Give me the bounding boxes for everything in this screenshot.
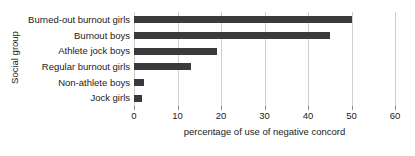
x-axis-tick-label: 30 bbox=[259, 110, 270, 121]
bar-row bbox=[134, 43, 395, 59]
bar-chart: Social group Burned-out burnout girls Bu… bbox=[0, 0, 415, 156]
y-axis-tick-label: Regular burnout girls bbox=[16, 59, 130, 75]
x-axis-tick-label: 20 bbox=[216, 110, 227, 121]
y-axis-tick-label: Non-athlete boys bbox=[16, 75, 130, 91]
gridline bbox=[395, 12, 396, 106]
x-axis-tick-label: 0 bbox=[131, 110, 136, 121]
bar-row bbox=[134, 75, 395, 91]
y-axis-tick-label: Burnout boys bbox=[16, 28, 130, 44]
bar bbox=[134, 32, 330, 39]
plot-area bbox=[134, 12, 395, 106]
x-axis-tick-label: 60 bbox=[390, 110, 401, 121]
y-axis-tick-label: Athlete jock boys bbox=[16, 43, 130, 59]
x-axis-tick-label: 40 bbox=[303, 110, 314, 121]
bar bbox=[134, 79, 144, 86]
bar-row bbox=[134, 90, 395, 106]
y-axis-tick-label: Burned-out burnout girls bbox=[16, 12, 130, 28]
y-axis-tick-labels: Burned-out burnout girls Burnout boys At… bbox=[16, 12, 130, 106]
y-axis-tick-label: Jock girls bbox=[16, 90, 130, 106]
bar bbox=[134, 63, 191, 70]
x-axis-tick-label: 10 bbox=[172, 110, 183, 121]
bar-series bbox=[134, 12, 395, 106]
bar bbox=[134, 95, 142, 102]
bar-row bbox=[134, 12, 395, 28]
bar bbox=[134, 16, 352, 23]
bar bbox=[134, 48, 217, 55]
bar-row bbox=[134, 28, 395, 44]
bar-row bbox=[134, 59, 395, 75]
x-axis-tick-labels: 0102030405060 bbox=[134, 110, 395, 124]
x-axis-title: percentage of use of negative concord bbox=[134, 126, 395, 137]
x-axis-tick-label: 50 bbox=[346, 110, 357, 121]
